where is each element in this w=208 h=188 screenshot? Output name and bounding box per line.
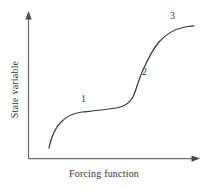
chart-canvas: [0, 0, 208, 188]
x-axis-arrow-icon: [192, 155, 201, 161]
data-curve: [49, 26, 194, 148]
annotation-label-2: 2: [142, 67, 147, 77]
y-axis-label-wrapper: State variable: [0, 0, 18, 188]
figure-container: 1 2 3 Forcing function State variable: [0, 0, 208, 188]
annotation-label-1: 1: [81, 94, 86, 104]
y-axis-label: State variable: [9, 30, 20, 150]
y-axis-arrow-icon: [25, 11, 31, 20]
x-axis-label: Forcing function: [0, 168, 208, 179]
annotation-label-3: 3: [170, 11, 175, 21]
